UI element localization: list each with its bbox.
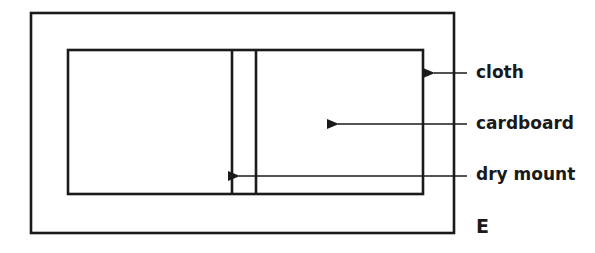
label-dry-mount: dry mount: [476, 164, 575, 184]
cardboard-outline: [68, 50, 423, 194]
label-cloth: cloth: [476, 62, 524, 82]
figure-letter: E: [476, 216, 489, 236]
cloth-outline: [31, 13, 454, 233]
label-cardboard: cardboard: [476, 113, 574, 133]
